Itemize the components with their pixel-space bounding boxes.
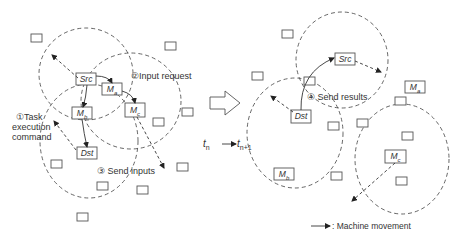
src-to-ma-arrow [96, 76, 112, 83]
range-circle-mc [81, 53, 181, 149]
machine-box [137, 186, 148, 194]
step3-num: ③ [97, 166, 105, 176]
node-src-left-label: Src [76, 73, 96, 86]
machine-box [402, 132, 413, 140]
machine-box [165, 42, 176, 50]
node-dst-right-label: Dst [291, 110, 311, 123]
time-to-label: tn+1 [237, 139, 252, 153]
machine-box [282, 30, 293, 38]
transition-arrow-icon [210, 91, 240, 115]
node-ma-right-label: MaMa [405, 81, 425, 98]
legend-label: : Machine movement [332, 221, 411, 231]
machine-box [182, 108, 193, 116]
src-movement-arrow [52, 55, 78, 78]
step4-text: Send results [318, 92, 368, 102]
diagram-canvas [0, 0, 453, 241]
dst-movement-arrow-right [271, 96, 293, 112]
machine-box [77, 213, 88, 221]
step2-text: Input request [139, 71, 192, 81]
range-circle-mb [40, 84, 138, 198]
machine-box [177, 163, 188, 171]
machine-box [51, 160, 62, 168]
node-mb-right-label: MbMb [274, 168, 294, 185]
step1-line1: Task [24, 112, 43, 122]
dst-movement-arrow [54, 121, 76, 150]
node-mc-left-label: McMc [125, 104, 145, 121]
machine-box [328, 122, 339, 130]
step1-line3: command [12, 132, 52, 142]
src-movement-arrow-right [355, 61, 381, 72]
node-dst-left-label: Dst [77, 147, 97, 160]
step1-label: ①Task [16, 112, 43, 122]
step3-label: ③ Send inputs [97, 166, 155, 176]
step2-num: ② [131, 71, 139, 81]
step4-num: ④ [307, 92, 315, 102]
step2-label: ②Input request [131, 71, 192, 81]
node-mb-left-label: MbMb [72, 107, 92, 124]
step4-label: ④ Send results [307, 92, 368, 102]
node-ma-left-label: MaMa [102, 83, 122, 100]
src-to-mb-arrow [83, 85, 87, 107]
machine-box [153, 118, 164, 126]
machine-box [31, 34, 42, 42]
node-src-right-label: Src [335, 53, 355, 66]
machine-box [357, 119, 368, 127]
machine-box [395, 97, 406, 105]
time-to-sub: n+1 [240, 144, 252, 151]
time-from-sub: n [206, 144, 210, 151]
machine-box [252, 72, 263, 80]
step1-num: ① [16, 112, 24, 122]
node-mc-right-label: McMc [385, 150, 406, 167]
step3-text: Send inputs [108, 166, 156, 176]
time-from-label: tn [203, 139, 210, 153]
mc-movement-arrow-right [352, 163, 395, 201]
machine-box [396, 177, 407, 185]
step1-line2: execution [12, 122, 51, 132]
machine-box [331, 172, 342, 180]
machine-box [97, 182, 108, 190]
